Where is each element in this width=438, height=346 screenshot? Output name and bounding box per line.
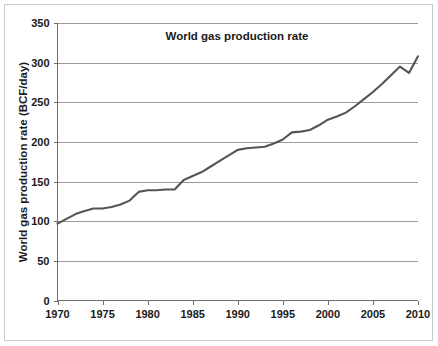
y-tick-label: 200 (31, 136, 49, 148)
chart-title: World gas production rate (166, 30, 309, 42)
x-tick-label: 2005 (361, 308, 385, 320)
y-tick-label: 150 (31, 176, 49, 188)
y-tick-label: 350 (31, 17, 49, 29)
line-chart: 050100150200250300350 197019751980198519… (0, 0, 438, 346)
x-tick-label: 1975 (90, 308, 114, 320)
gridlines-group (58, 24, 419, 262)
x-axis-tick-labels: 197019751980198519901995200020052010 (45, 308, 430, 320)
x-tick-label: 1995 (271, 308, 295, 320)
data-series-line (58, 56, 419, 223)
x-tick-label: 2010 (406, 308, 430, 320)
x-tick-label: 1990 (226, 308, 250, 320)
y-axis-title: World gas production rate (BCF/day) (17, 62, 29, 263)
y-tick-label: 0 (43, 295, 49, 307)
x-tick-label: 1970 (45, 308, 69, 320)
y-axis-tick-labels: 050100150200250300350 (31, 17, 49, 307)
y-tick-label: 50 (37, 255, 49, 267)
x-tick-label: 2000 (316, 308, 340, 320)
x-tick-label: 1980 (135, 308, 159, 320)
chart-figure: 050100150200250300350 197019751980198519… (0, 0, 438, 346)
tick-marks-group (54, 24, 419, 305)
y-tick-label: 100 (31, 215, 49, 227)
x-tick-label: 1985 (180, 308, 204, 320)
y-tick-label: 300 (31, 57, 49, 69)
y-tick-label: 250 (31, 96, 49, 108)
